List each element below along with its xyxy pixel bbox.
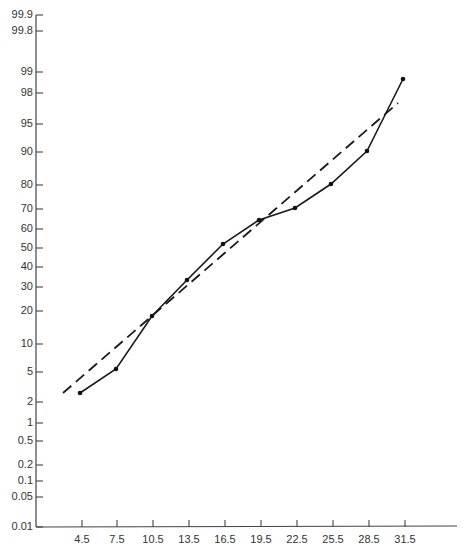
data-points <box>78 77 406 396</box>
y-tick-label: 95 <box>21 117 33 129</box>
x-tick-label: 19.5 <box>250 533 271 545</box>
data-point-marker <box>221 242 226 247</box>
x-tick-label: 22.5 <box>286 533 307 545</box>
y-tick-label: 99.9 <box>12 8 33 20</box>
x-tick-label: 31.5 <box>394 533 415 545</box>
data-point-marker <box>114 367 119 372</box>
y-tick-label: 40 <box>21 260 33 272</box>
y-tick-label: 1 <box>27 416 33 428</box>
x-axis-line <box>36 526 457 527</box>
x-tick-label: 28.5 <box>358 533 379 545</box>
data-point-marker <box>257 218 262 223</box>
x-axis: 4.57.510.513.516.519.522.525.528.531.5 <box>36 520 457 545</box>
y-tick-label: 0.01 <box>12 520 33 532</box>
series-polyline <box>80 79 403 393</box>
data-point-marker <box>329 182 334 187</box>
y-tick-label: 99.8 <box>12 24 33 36</box>
x-tick-label: 7.5 <box>109 533 124 545</box>
y-tick-label: 30 <box>21 280 33 292</box>
x-tick-label: 16.5 <box>214 533 235 545</box>
y-tick-label: 0.5 <box>18 434 33 446</box>
data-point-marker <box>185 278 190 283</box>
y-tick-label: 0.2 <box>18 458 33 470</box>
y-tick-label: 80 <box>21 178 33 190</box>
y-tick-label: 2 <box>27 395 33 407</box>
y-tick-label: 50 <box>21 241 33 253</box>
probability-plot: 0.010.050.10.20.512510203040506070809095… <box>0 0 465 553</box>
x-tick-label: 4.5 <box>74 533 89 545</box>
y-tick-label: 99 <box>21 65 33 77</box>
data-point-marker <box>401 77 406 82</box>
x-tick-label: 25.5 <box>322 533 343 545</box>
y-tick-label: 70 <box>21 202 33 214</box>
y-tick-label: 0.05 <box>12 490 33 502</box>
y-tick-label: 98 <box>21 86 33 98</box>
y-tick-label: 0.1 <box>18 474 33 486</box>
observed-series-line <box>80 79 403 393</box>
x-tick-label: 13.5 <box>178 533 199 545</box>
data-point-marker <box>150 314 155 319</box>
y-tick-label: 60 <box>21 222 33 234</box>
y-tick-label: 90 <box>21 145 33 157</box>
y-tick-label: 20 <box>21 304 33 316</box>
data-point-marker <box>78 391 83 396</box>
y-tick-label: 10 <box>21 337 33 349</box>
y-tick-label: 5 <box>27 365 33 377</box>
fit-line <box>63 103 398 393</box>
data-point-marker <box>365 149 370 154</box>
data-point-marker <box>293 206 298 211</box>
x-tick-label: 10.5 <box>142 533 163 545</box>
fitted-dashed-line <box>63 103 398 393</box>
y-axis: 0.010.050.10.20.512510203040506070809095… <box>12 8 43 532</box>
